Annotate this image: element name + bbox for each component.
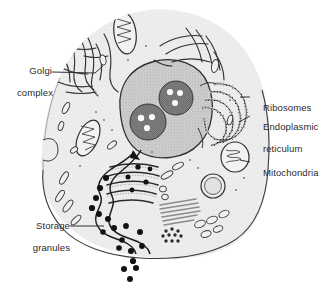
lysosome-vacuole xyxy=(201,174,225,198)
label-mitochondria-line1: Mitochondria xyxy=(263,167,319,178)
label-er-line2: reticulum xyxy=(263,143,302,154)
label-storage-granules: Storage granules xyxy=(18,209,70,264)
label-er-line1: Endoplasmic xyxy=(263,121,319,132)
label-golgi-line1: Golgi xyxy=(29,65,52,76)
cell-diagram-page: Golgi complex Ribosomes Endoplasmic reti… xyxy=(0,0,320,294)
nucleolus-upper-right xyxy=(159,81,193,115)
nucleolus-lower-left xyxy=(130,104,166,140)
label-storage-line1: Storage xyxy=(36,220,70,231)
label-golgi-line2: complex xyxy=(17,87,53,98)
label-storage-line2: granules xyxy=(33,242,70,253)
mitochondrion-right-edge xyxy=(221,142,249,172)
nucleus xyxy=(120,60,213,158)
label-mitochondria: Mitochondria xyxy=(252,156,319,189)
label-golgi-complex: Golgi complex xyxy=(6,54,52,109)
